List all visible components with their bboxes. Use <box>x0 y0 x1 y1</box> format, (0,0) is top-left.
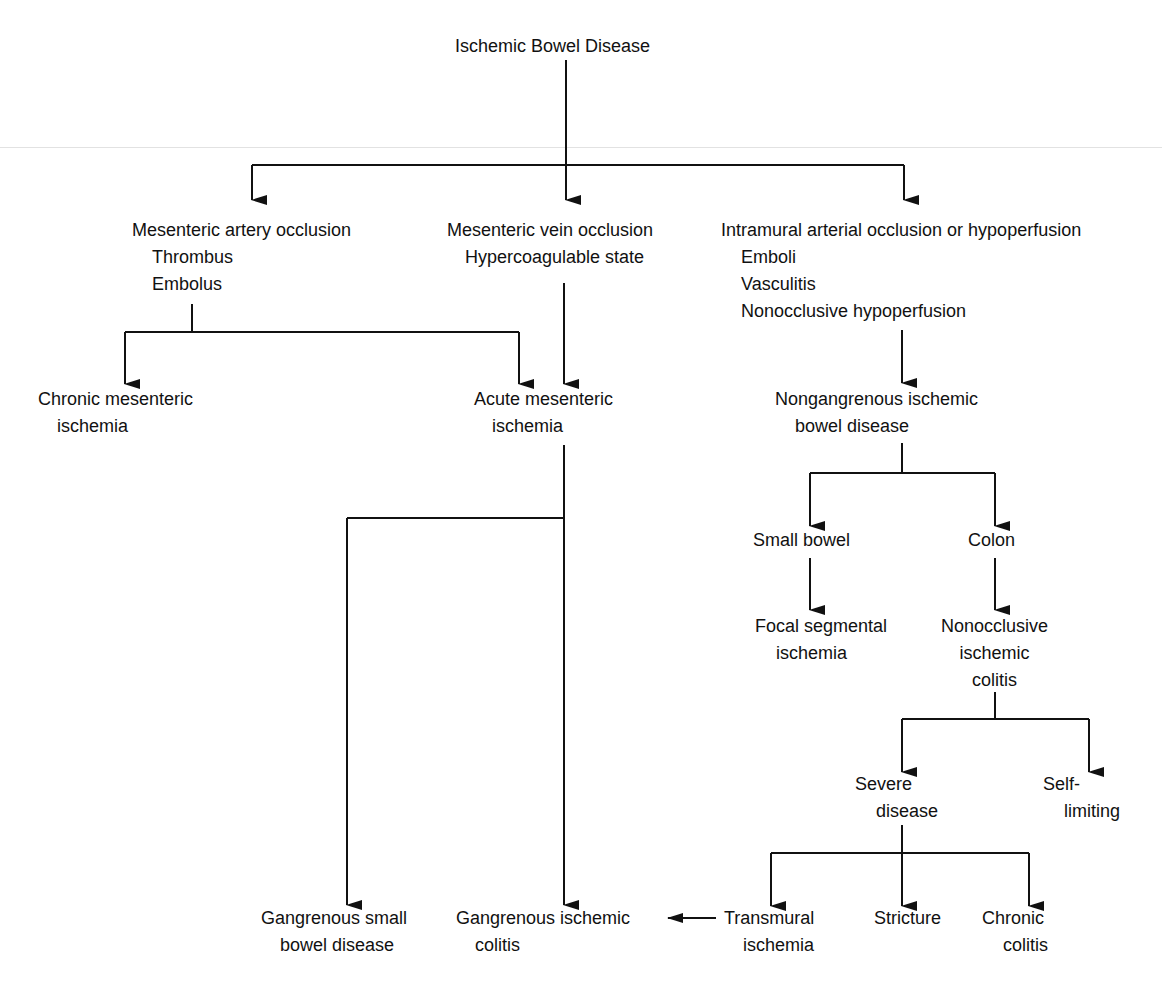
node-label: colitis <box>456 932 630 959</box>
node-label: ischemia <box>474 413 613 440</box>
node-label: Mesenteric vein occlusion <box>447 217 653 244</box>
node-label: Mesenteric artery occlusion <box>132 217 351 244</box>
node-label: Focal segmental <box>755 613 887 640</box>
node-label: Colon <box>968 527 1015 554</box>
node-sublabel: Thrombus <box>132 244 351 271</box>
node-label: Nongangrenous ischemic <box>775 386 978 413</box>
node-colon: Colon <box>968 527 1015 554</box>
node-nonocclusive-ischemic-colitis: Nonocclusive ischemic colitis <box>941 613 1048 694</box>
node-intramural-occlusion: Intramural arterial occlusion or hypoper… <box>721 217 1081 325</box>
node-label: ischemia <box>38 413 193 440</box>
node-gangrenous-ischemic-colitis: Gangrenous ischemic colitis <box>456 905 630 959</box>
node-label: Acute mesenteric <box>474 386 613 413</box>
node-label: ischemic <box>941 640 1048 667</box>
node-label: colitis <box>982 932 1048 959</box>
node-sublabel: Hypercoagulable state <box>447 244 653 271</box>
node-nongangrenous-ischemic-bowel-disease: Nongangrenous ischemic bowel disease <box>775 386 978 440</box>
node-sublabel: Embolus <box>132 271 351 298</box>
node-label: bowel disease <box>775 413 978 440</box>
node-mesenteric-artery-occlusion: Mesenteric artery occlusion Thrombus Emb… <box>132 217 351 298</box>
node-ischemic-bowel-disease: Ischemic Bowel Disease <box>455 33 650 60</box>
node-gangrenous-small-bowel-disease: Gangrenous small bowel disease <box>261 905 407 959</box>
node-label: Gangrenous small <box>261 905 407 932</box>
node-focal-segmental-ischemia: Focal segmental ischemia <box>755 613 887 667</box>
flowchart-canvas: Ischemic Bowel Disease Mesenteric artery… <box>0 0 1162 984</box>
node-label: disease <box>855 798 938 825</box>
node-label: Chronic mesenteric <box>38 386 193 413</box>
node-chronic-colitis: Chronic colitis <box>982 905 1048 959</box>
node-transmural-ischemia: Transmural ischemia <box>724 905 814 959</box>
node-label: ischemia <box>724 932 814 959</box>
node-label: Severe <box>855 771 938 798</box>
node-self-limiting: Self- limiting <box>1043 771 1120 825</box>
node-acute-mesenteric-ischemia: Acute mesenteric ischemia <box>474 386 613 440</box>
node-label: colitis <box>941 667 1048 694</box>
node-sublabel: Emboli <box>721 244 1081 271</box>
node-small-bowel: Small bowel <box>753 527 850 554</box>
node-label: Ischemic Bowel Disease <box>455 33 650 60</box>
connector-lines <box>0 0 1162 984</box>
node-label: Small bowel <box>753 527 850 554</box>
node-label: ischemia <box>755 640 887 667</box>
node-severe-disease: Severe disease <box>855 771 938 825</box>
node-label: bowel disease <box>261 932 407 959</box>
node-sublabel: Nonocclusive hypoperfusion <box>721 298 1081 325</box>
node-chronic-mesenteric-ischemia: Chronic mesenteric ischemia <box>38 386 193 440</box>
node-stricture: Stricture <box>874 905 941 932</box>
node-label: Chronic <box>982 905 1048 932</box>
node-label: Gangrenous ischemic <box>456 905 630 932</box>
node-label: Stricture <box>874 905 941 932</box>
node-sublabel: Vasculitis <box>721 271 1081 298</box>
node-label: Nonocclusive <box>941 613 1048 640</box>
node-label: Transmural <box>724 905 814 932</box>
node-label: Self- <box>1043 771 1120 798</box>
node-label: limiting <box>1043 798 1120 825</box>
node-label: Intramural arterial occlusion or hypoper… <box>721 217 1081 244</box>
node-mesenteric-vein-occlusion: Mesenteric vein occlusion Hypercoagulabl… <box>447 217 653 271</box>
